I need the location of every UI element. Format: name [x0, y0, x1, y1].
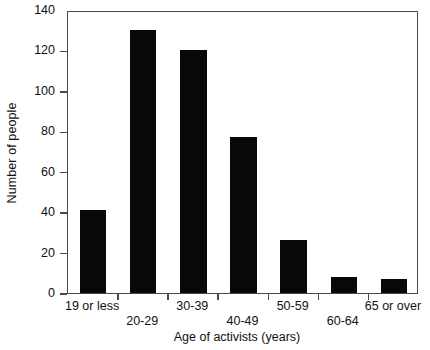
bar	[130, 30, 156, 293]
bar	[230, 137, 256, 293]
bar	[80, 210, 106, 293]
y-axis-tick-mark	[60, 293, 67, 294]
x-axis-tick-mark	[167, 294, 168, 300]
x-axis-tick-label: 60-64	[327, 314, 359, 328]
histogram-chart: Number of people 020406080100120140 19 o…	[0, 0, 430, 350]
x-axis-tick-mark	[217, 294, 218, 300]
bar	[180, 50, 206, 293]
y-axis-tick-mark	[60, 212, 67, 213]
y-axis-tick-label: 60	[41, 165, 55, 179]
bar	[381, 279, 407, 293]
x-axis-tick-label: 40-49	[227, 314, 259, 328]
y-axis-tick-mark	[60, 172, 67, 173]
y-axis-tick-label: 100	[34, 84, 55, 98]
x-axis-tick-mark	[318, 294, 319, 300]
plot-area	[67, 11, 418, 294]
y-axis-tick-label: 120	[34, 43, 55, 57]
y-axis-tick-mark	[60, 253, 67, 254]
y-axis-tick-mark	[60, 51, 67, 52]
x-axis-title: Age of activists (years)	[0, 330, 430, 344]
y-axis-tick-mark	[60, 132, 67, 133]
bar	[280, 240, 306, 293]
x-axis-tick-label: 50-59	[277, 299, 309, 313]
y-axis-tick-label: 0	[48, 286, 55, 300]
y-axis-title-text: Number of people	[5, 102, 19, 203]
x-axis-tick-mark	[268, 294, 269, 300]
x-axis-tick-label: 20-29	[126, 314, 158, 328]
bar	[331, 277, 357, 293]
x-axis-tick-label: 19 or less	[65, 299, 119, 313]
y-axis-tick-label: 140	[34, 3, 55, 17]
x-axis-title-text: Age of activists (years)	[130, 330, 300, 344]
y-axis-title: Number of people	[4, 11, 20, 294]
y-axis-tick-label: 40	[41, 205, 55, 219]
y-axis-tick-mark	[60, 91, 67, 92]
x-axis-tick-label: 30-39	[176, 299, 208, 313]
x-axis-tick-label: 65 or over	[365, 299, 421, 313]
y-axis-tick-label: 20	[41, 246, 55, 260]
y-axis-tick-label: 80	[41, 124, 55, 138]
